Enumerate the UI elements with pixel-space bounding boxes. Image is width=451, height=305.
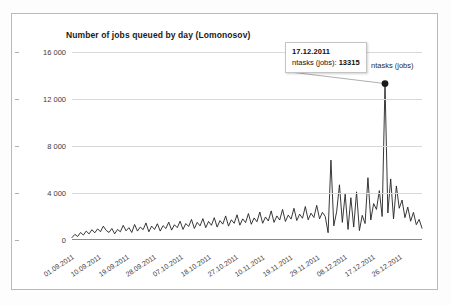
tooltip-value: 13315 bbox=[339, 58, 360, 67]
chart-screenshot: Number of jobs queued by day (Lomonosov)… bbox=[0, 0, 451, 305]
tooltip-date: 17.12.2011 bbox=[292, 47, 360, 56]
tooltip-metric-row: ntasks (jobs): 13315 bbox=[292, 58, 360, 67]
data-point-tooltip: 17.12.2011 ntasks (jobs): 13315 bbox=[285, 42, 367, 73]
annotation-leader-line bbox=[0, 0, 451, 305]
tooltip-metric-label: ntasks (jobs): bbox=[292, 58, 337, 67]
